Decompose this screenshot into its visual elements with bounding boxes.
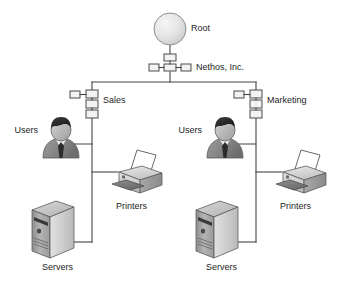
marketing-printers-label: Printers: [280, 201, 312, 211]
organization-container-icon: [149, 54, 191, 71]
org-box-bottom: [164, 64, 176, 71]
org-box-top: [164, 54, 176, 61]
root-label: Root: [191, 23, 211, 33]
marketing-organizational-unit-icon: [234, 90, 262, 118]
marketing-label: Marketing: [267, 95, 307, 105]
sales-label: Sales: [103, 95, 126, 105]
root-node[interactable]: Root: [154, 13, 211, 45]
marketing-printers-node[interactable]: Printers: [276, 150, 326, 211]
marketing-user-person-icon: [207, 117, 243, 158]
sales-servers-node[interactable]: Servers: [32, 201, 74, 272]
marketing-users-node[interactable]: Users: [178, 117, 243, 158]
marketing-box-3: [250, 110, 262, 118]
sales-printer-icon: [112, 150, 162, 193]
network-diagram: Root Nethos, Inc.: [0, 0, 339, 283]
sales-users-label: Users: [14, 125, 38, 135]
marketing-box-1: [250, 90, 262, 98]
marketing-printer-icon: [276, 150, 326, 193]
sales-user-person-icon: [43, 117, 79, 158]
org-box-right: [181, 64, 191, 71]
sales-printers-node[interactable]: Printers: [112, 150, 162, 211]
marketing-servers-label: Servers: [206, 262, 238, 272]
sales-box-3: [86, 110, 98, 118]
sales-box-satellite: [70, 91, 80, 98]
organization-label: Nethos, Inc.: [196, 62, 244, 72]
marketing-box-2: [250, 100, 262, 108]
marketing-node[interactable]: Marketing: [234, 90, 307, 118]
organization-node[interactable]: Nethos, Inc.: [149, 54, 244, 72]
sales-users-node[interactable]: Users: [14, 117, 79, 158]
sales-server-tower-icon: [32, 201, 74, 258]
marketing-box-satellite: [234, 91, 244, 98]
sales-box-1: [86, 90, 98, 98]
marketing-servers-node[interactable]: Servers: [196, 201, 238, 272]
sales-servers-label: Servers: [42, 262, 74, 272]
diagram-canvas: Root Nethos, Inc.: [0, 0, 339, 283]
sales-box-2: [86, 100, 98, 108]
marketing-server-tower-icon: [196, 201, 238, 258]
sales-node[interactable]: Sales: [70, 90, 126, 118]
circle-root-icon: [154, 13, 186, 45]
org-box-left: [149, 64, 159, 71]
sales-organizational-unit-icon: [70, 90, 98, 118]
connector-lines: [54, 45, 282, 242]
marketing-users-label: Users: [178, 125, 202, 135]
sales-printers-label: Printers: [116, 201, 148, 211]
